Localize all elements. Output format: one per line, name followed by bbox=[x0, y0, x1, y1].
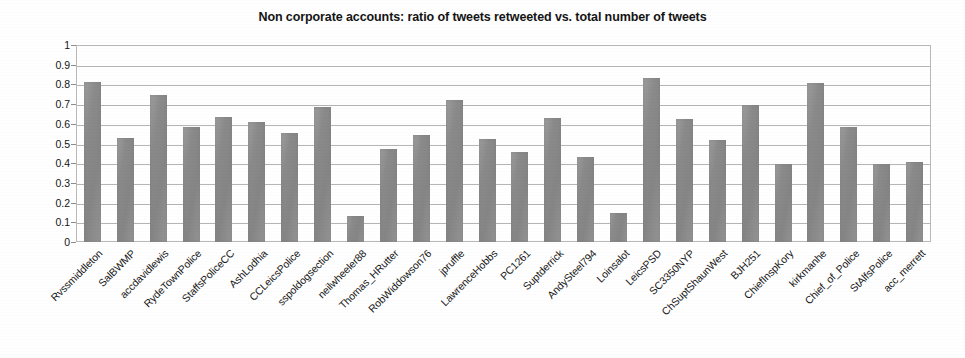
bar bbox=[117, 138, 134, 242]
y-tick-label: 0.3 bbox=[55, 177, 70, 189]
y-tick-label: 0.1 bbox=[55, 216, 70, 228]
y-tick-mark bbox=[71, 222, 76, 223]
bar bbox=[610, 213, 627, 242]
bar bbox=[511, 152, 528, 242]
y-tick-mark bbox=[71, 45, 76, 46]
x-axis: RvssmiddletonSalBWMPaccdavidlewisRydeTow… bbox=[76, 244, 931, 358]
y-tick-label: 1 bbox=[64, 39, 70, 51]
y-tick-mark bbox=[71, 104, 76, 105]
y-tick-label: 0.6 bbox=[55, 118, 70, 130]
chart-title: Non corporate accounts: ratio of tweets … bbox=[0, 10, 965, 24]
y-tick-mark bbox=[71, 183, 76, 184]
y-tick-label: 0.8 bbox=[55, 78, 70, 90]
y-axis: 10.90.80.70.60.50.40.30.20.10 bbox=[40, 45, 70, 242]
bar bbox=[215, 117, 232, 242]
bar bbox=[248, 122, 265, 242]
x-tick-label: jpruffle bbox=[437, 247, 467, 277]
bar bbox=[906, 162, 923, 242]
bar bbox=[676, 119, 693, 242]
x-tick-label: Rvssmiddleton bbox=[49, 247, 105, 303]
bar-chart: Non corporate accounts: ratio of tweets … bbox=[0, 0, 965, 358]
bar bbox=[183, 127, 200, 242]
y-tick-mark bbox=[71, 242, 76, 243]
bar bbox=[742, 105, 759, 242]
x-tick-label: RobWiddowson76 bbox=[366, 247, 434, 315]
y-tick-mark bbox=[71, 144, 76, 145]
bar bbox=[807, 83, 824, 242]
y-tick-mark bbox=[71, 163, 76, 164]
bar bbox=[873, 164, 890, 242]
y-tick-label: 0.2 bbox=[55, 197, 70, 209]
bar bbox=[775, 164, 792, 242]
y-tick-label: 0.9 bbox=[55, 59, 70, 71]
x-tick-label: RydeTownPolice bbox=[141, 247, 203, 309]
bar bbox=[544, 118, 561, 242]
y-tick-mark bbox=[71, 84, 76, 85]
bar bbox=[281, 133, 298, 242]
bar bbox=[380, 149, 397, 242]
y-tick-label: 0.4 bbox=[55, 157, 70, 169]
y-tick-label: 0.7 bbox=[55, 98, 70, 110]
bar bbox=[709, 140, 726, 242]
x-tick-label: ChSuptShaunWest bbox=[659, 247, 729, 317]
bar bbox=[643, 78, 660, 242]
bars-layer bbox=[76, 45, 931, 242]
y-tick-mark bbox=[71, 124, 76, 125]
y-tick-label: 0.5 bbox=[55, 138, 70, 150]
bar bbox=[84, 82, 101, 242]
bar bbox=[314, 107, 331, 242]
bar bbox=[479, 139, 496, 242]
y-tick-label: 0 bbox=[64, 236, 70, 248]
y-tick-mark bbox=[71, 203, 76, 204]
bar bbox=[446, 100, 463, 242]
bar bbox=[413, 135, 430, 242]
bar bbox=[840, 127, 857, 242]
bar bbox=[347, 216, 364, 242]
bar bbox=[577, 157, 594, 242]
y-tick-mark bbox=[71, 65, 76, 66]
bar bbox=[150, 95, 167, 242]
